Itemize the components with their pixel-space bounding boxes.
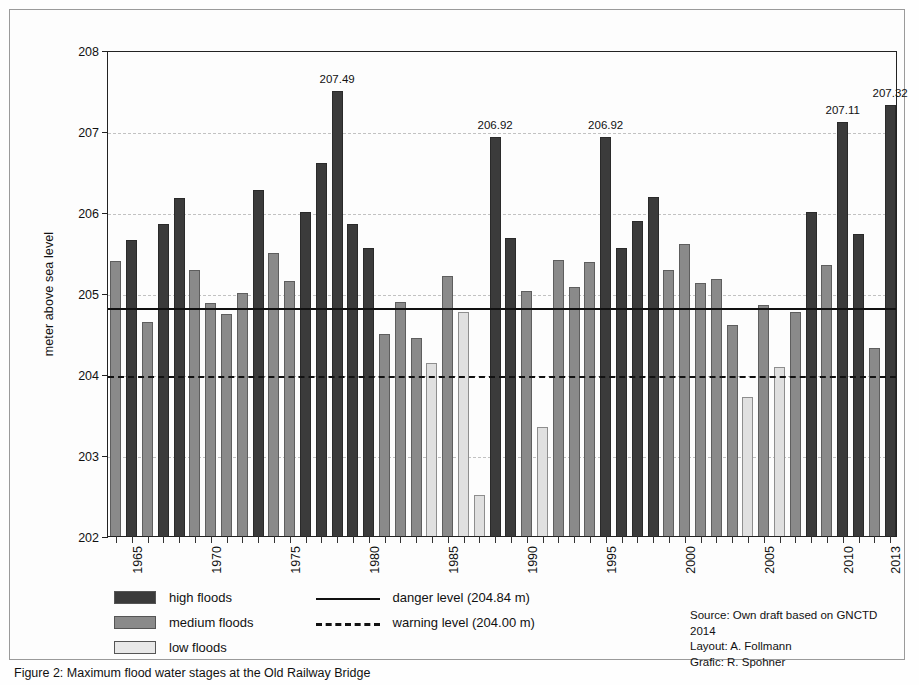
x-tick-label-1990: 1990: [526, 546, 540, 574]
x-tick-mark-1968: [179, 536, 180, 543]
x-tick-mark-1976: [306, 536, 307, 543]
bar-1985[interactable]: [442, 276, 453, 536]
bar-1993[interactable]: [569, 287, 580, 536]
bar-2007[interactable]: [790, 312, 801, 536]
bar-2013[interactable]: [885, 105, 896, 536]
legend-swatch-medium-floods: [114, 616, 156, 629]
x-tick-mark-1997: [637, 536, 638, 543]
x-tick-mark-1986: [464, 536, 465, 543]
bar-1986[interactable]: [458, 312, 469, 536]
y-tick-label-206: 206: [78, 207, 108, 221]
credits-grafic: Grafic: R. Spohner: [690, 655, 904, 671]
bar-1967[interactable]: [158, 224, 169, 536]
bar-1969[interactable]: [189, 270, 200, 536]
x-tick-mark-1994: [590, 536, 591, 543]
bar-1973[interactable]: [253, 190, 264, 536]
reference-line-danger-level: [108, 308, 896, 310]
x-tick-mark-1992: [558, 536, 559, 543]
x-tick-mark-1987: [479, 536, 480, 543]
legend-line-danger-level: [316, 592, 380, 604]
x-tick-mark-2004: [748, 536, 749, 543]
bar-1968[interactable]: [174, 198, 185, 536]
y-tick-label-208: 208: [78, 45, 108, 59]
bar-2002[interactable]: [711, 279, 722, 536]
legend-label-danger-level: danger level (204.84 m): [393, 590, 530, 605]
bar-2010[interactable]: [837, 122, 848, 536]
bar-2005[interactable]: [758, 305, 769, 536]
x-tick-mark-1973: [258, 536, 259, 543]
legend-label-low-floods: low floods: [169, 640, 227, 655]
bar-1975[interactable]: [284, 281, 295, 536]
bar-2008[interactable]: [806, 212, 817, 536]
legend-item-warning-level: warning level (204.00 m): [316, 615, 535, 630]
bar-1972[interactable]: [237, 293, 248, 536]
bar-1981[interactable]: [379, 334, 390, 536]
bar-2009[interactable]: [821, 265, 832, 536]
x-tick-mark-1993: [574, 536, 575, 543]
figure-frame: meter above sea level 202203204205206207…: [9, 9, 905, 660]
credits-source: Source: Own draft based on GNCTD 2014: [690, 608, 904, 639]
bar-1990[interactable]: [521, 291, 532, 536]
x-tick-mark-2003: [732, 536, 733, 543]
x-tick-mark-1999: [669, 536, 670, 543]
y-tick-label-204: 204: [78, 369, 108, 383]
bar-label-1995: 206.92: [588, 119, 623, 131]
x-tick-mark-2009: [827, 536, 828, 543]
bar-1989[interactable]: [505, 238, 516, 536]
x-tick-mark-2002: [716, 536, 717, 543]
x-tick-mark-1966: [148, 536, 149, 543]
legend-label-high-floods: high floods: [169, 590, 232, 605]
x-tick-mark-1974: [274, 536, 275, 543]
bar-1991[interactable]: [537, 427, 548, 536]
bar-label-2013: 207.32: [873, 87, 908, 99]
x-tick-mark-2008: [811, 536, 812, 543]
bar-2004[interactable]: [742, 397, 753, 536]
bar-1997[interactable]: [632, 221, 643, 536]
legend-swatch-low-floods: [114, 641, 156, 654]
bar-1995[interactable]: [600, 137, 611, 536]
bar-1965[interactable]: [126, 240, 137, 536]
x-tick-mark-1983: [416, 536, 417, 543]
bar-1988[interactable]: [490, 137, 501, 536]
bar-1974[interactable]: [268, 253, 279, 536]
bar-1984[interactable]: [426, 363, 437, 536]
x-tick-mark-1996: [622, 536, 623, 543]
bar-1998[interactable]: [648, 197, 659, 536]
x-tick-mark-1984: [432, 536, 433, 543]
bar-1983[interactable]: [411, 338, 422, 536]
bar-1964[interactable]: [110, 261, 121, 536]
bar-1978[interactable]: [332, 91, 343, 536]
bar-2000[interactable]: [679, 244, 690, 536]
x-tick-label-1995: 1995: [605, 546, 619, 574]
x-tick-mark-1971: [227, 536, 228, 543]
bar-1971[interactable]: [221, 314, 232, 536]
x-tick-label-2013: 2013: [889, 546, 903, 574]
legend-item-low-floods: low floods: [114, 640, 254, 655]
bar-1977[interactable]: [316, 163, 327, 536]
bar-1994[interactable]: [584, 262, 595, 536]
legend-label-medium-floods: medium floods: [169, 615, 254, 630]
bar-1976[interactable]: [300, 212, 311, 536]
bar-1980[interactable]: [363, 248, 374, 536]
x-tick-mark-1989: [511, 536, 512, 543]
figure-caption: Figure 2: Maximum flood water stages at …: [14, 666, 370, 680]
bar-1996[interactable]: [616, 248, 627, 536]
reference-line-warning-level: [108, 376, 896, 378]
bar-1979[interactable]: [347, 224, 358, 536]
plot-area: 202203204205206207208 207.49206.92206.92…: [107, 51, 897, 537]
bar-2011[interactable]: [853, 234, 864, 536]
bar-1966[interactable]: [142, 322, 153, 536]
bar-1987[interactable]: [474, 495, 485, 536]
bar-1970[interactable]: [205, 303, 216, 536]
bar-label-1988: 206.92: [478, 119, 513, 131]
x-tick-mark-1990: [527, 536, 528, 543]
bar-2001[interactable]: [695, 283, 706, 536]
x-tick-label-2010: 2010: [842, 546, 856, 574]
bar-1992[interactable]: [553, 260, 564, 536]
x-tick-mark-2005: [764, 536, 765, 543]
bar-2003[interactable]: [727, 325, 738, 536]
x-tick-mark-2001: [701, 536, 702, 543]
bar-2006[interactable]: [774, 367, 785, 536]
bar-1982[interactable]: [395, 302, 406, 536]
x-tick-mark-1977: [321, 536, 322, 543]
